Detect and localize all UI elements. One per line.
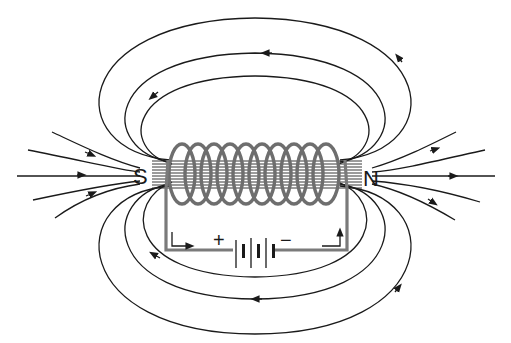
south-pole-label: S <box>133 164 148 189</box>
solenoid-diagram: + − S N <box>0 0 511 343</box>
right-field-lines <box>372 132 495 220</box>
circuit-wire <box>166 160 347 250</box>
battery <box>236 238 275 268</box>
solenoid-coil <box>169 144 339 204</box>
battery-positive-label: + <box>213 229 225 251</box>
battery-negative-label: − <box>280 229 292 251</box>
lower-field-loops <box>99 182 411 334</box>
upper-field-loops <box>99 18 411 164</box>
left-field-lines <box>17 132 140 218</box>
north-pole-label: N <box>363 166 379 191</box>
